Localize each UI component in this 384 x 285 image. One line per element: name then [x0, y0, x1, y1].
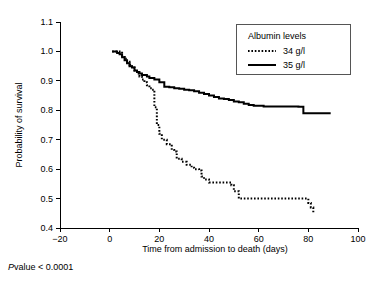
y-axis-title: Probability of survival	[14, 82, 24, 167]
legend-title: Albumin levels	[248, 31, 307, 41]
y-tick-label: 0.4	[40, 223, 53, 233]
y-tick-label: 0.8	[40, 105, 53, 115]
x-tick-label: −20	[52, 234, 67, 244]
x-tick-label: 60	[254, 234, 264, 244]
y-tick-label: 0.7	[40, 135, 53, 145]
legend-label-35: 35 g/l	[283, 60, 305, 70]
x-axis-ticks: −20020406080100	[52, 228, 365, 244]
x-tick-label: 80	[303, 234, 313, 244]
p-value-text: value < 0.0001	[14, 262, 73, 272]
survival-chart-figure: 0.40.50.60.70.80.91.01.1 −20020406080100…	[0, 0, 384, 285]
legend-label-34: 34 g/l	[283, 46, 305, 56]
survival-curves	[112, 51, 331, 213]
y-tick-label: 1.1	[40, 17, 53, 27]
x-tick-label: 20	[154, 234, 164, 244]
y-tick-label: 0.9	[40, 76, 53, 86]
x-tick-label: 40	[204, 234, 214, 244]
x-axis-title: Time from admission to death (days)	[142, 244, 288, 254]
p-value-note: Pvalue < 0.0001	[8, 262, 73, 272]
y-tick-label: 0.6	[40, 164, 53, 174]
x-tick-label: 0	[107, 234, 112, 244]
y-axis-ticks: 0.40.50.60.70.80.91.01.1	[40, 17, 60, 233]
x-tick-label: 100	[350, 234, 365, 244]
y-tick-label: 0.5	[40, 194, 53, 204]
y-tick-label: 1.0	[40, 46, 53, 56]
legend: Albumin levels 34 g/l 35 g/l	[236, 24, 350, 74]
kaplan-meier-plot: 0.40.50.60.70.80.91.01.1 −20020406080100…	[0, 0, 384, 285]
